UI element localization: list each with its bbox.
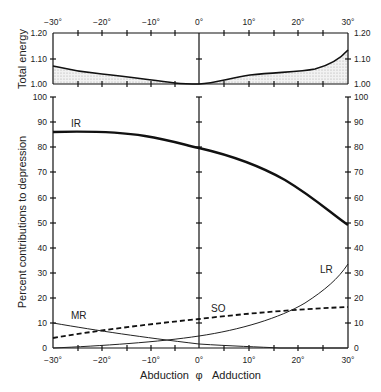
- tick-label: 20°: [292, 17, 305, 27]
- tick-label: 10°: [243, 17, 256, 27]
- label-so: SO: [211, 303, 226, 314]
- tick-label: 10: [38, 318, 48, 328]
- x-label-abduction: Abduction: [140, 369, 189, 381]
- contribution-axis-label: Percent contributions to depression: [16, 136, 28, 308]
- label-mr: MR: [71, 310, 87, 321]
- tick-label: 0: [354, 343, 359, 353]
- figure: −30° −20° −10° 0° 10° 20° 30° 1.20 1.10 …: [0, 0, 381, 392]
- tick-label: 10°: [243, 355, 256, 365]
- energy-y-labels-left: 1.20 1.10 1.00: [30, 28, 47, 89]
- label-ir: IR: [71, 118, 81, 129]
- tick-label: 50: [38, 218, 48, 228]
- bottom-x-tick-labels: −30° −20° −10° 0° 10° 20° 30°: [44, 355, 354, 365]
- tick-label: 80: [354, 142, 364, 152]
- tick-label: 40: [354, 243, 364, 253]
- tick-label: 70: [38, 167, 48, 177]
- x-label-adduction: Adduction: [212, 369, 261, 381]
- tick-label: 20°: [292, 355, 305, 365]
- contribution-y-labels-left: 100 90 80 70 60 50 40 30 20 10 0: [33, 92, 47, 353]
- tick-label: 10: [354, 318, 364, 328]
- series-lr-line: [53, 264, 348, 348]
- x-label-phi: φ: [195, 369, 202, 381]
- energy-y-labels-right: 1.20 1.10 1.00: [354, 28, 371, 89]
- tick-label: 20: [38, 293, 48, 303]
- tick-label: 90: [38, 117, 48, 127]
- tick-label: 0: [42, 343, 47, 353]
- tick-label: 50: [354, 218, 364, 228]
- tick-label: 60: [38, 193, 48, 203]
- tick-label: 30: [38, 268, 48, 278]
- series-ir-line: [53, 132, 348, 225]
- tick-label: 60: [354, 193, 364, 203]
- tick-label: 1.20: [354, 28, 371, 38]
- tick-label: 100: [354, 92, 368, 102]
- tick-label: −10°: [142, 355, 160, 365]
- label-lr: LR: [320, 264, 333, 275]
- tick-label: 1.10: [354, 54, 371, 64]
- tick-label: 30: [354, 268, 364, 278]
- energy-axis-label: Total energy: [16, 29, 28, 89]
- contribution-y-labels-right: 100 90 80 70 60 50 40 30 20 10 0: [354, 92, 368, 353]
- tick-label: 30°: [342, 355, 355, 365]
- tick-label: −10°: [142, 17, 160, 27]
- contribution-panel: 100 90 80 70 60 50 40 30 20 10 0 100 90 …: [16, 92, 368, 381]
- tick-label: 40: [38, 243, 48, 253]
- tick-label: −20°: [93, 17, 111, 27]
- tick-label: 30°: [342, 17, 355, 27]
- contribution-y-ticks: [50, 97, 351, 351]
- tick-label: −30°: [44, 17, 62, 27]
- tick-label: 0°: [195, 17, 203, 27]
- top-x-tick-labels: −30° −20° −10° 0° 10° 20° 30°: [44, 17, 354, 27]
- tick-label: 20: [354, 293, 364, 303]
- tick-label: 80: [38, 142, 48, 152]
- energy-area: [53, 50, 348, 84]
- x-axis-label: Abduction φ Adduction: [140, 369, 261, 381]
- tick-label: 90: [354, 117, 364, 127]
- tick-label: 1.10: [30, 54, 47, 64]
- tick-label: 0°: [195, 355, 203, 365]
- energy-panel: −30° −20° −10° 0° 10° 20° 30° 1.20 1.10 …: [16, 17, 371, 89]
- tick-label: 70: [354, 167, 364, 177]
- tick-label: 1.00: [354, 79, 371, 89]
- tick-label: −30°: [44, 355, 62, 365]
- tick-label: 1.20: [30, 28, 47, 38]
- tick-label: −20°: [93, 355, 111, 365]
- tick-label: 1.00: [30, 79, 47, 89]
- tick-label: 100: [33, 92, 47, 102]
